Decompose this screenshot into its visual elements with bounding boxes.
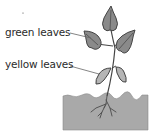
soil (63, 92, 148, 130)
label-yellow-leaves: yellow leaves (5, 58, 73, 70)
yellow-leaf-right (116, 67, 126, 82)
label-green-leaves: green leaves (5, 26, 70, 38)
speck (22, 12, 23, 13)
leader-line-yellow (70, 66, 99, 74)
yellow-leaf-left (96, 68, 111, 84)
